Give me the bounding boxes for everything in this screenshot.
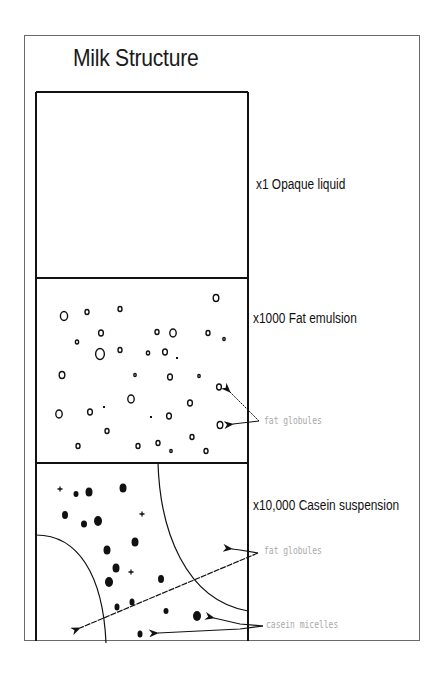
fat-globule <box>170 450 172 453</box>
fat-globule <box>213 295 219 302</box>
casein-micelles-group <box>58 484 202 638</box>
fat-globule <box>85 310 89 315</box>
casein-micelle <box>132 538 139 547</box>
fat-globules-group <box>56 295 225 454</box>
fat-globule-dot <box>103 406 105 408</box>
casein-micelle <box>158 575 164 583</box>
casein-micelle <box>105 577 113 587</box>
label-opaque-liquid: x1 Opaque liquid <box>256 176 345 192</box>
fat-globule <box>118 348 122 353</box>
annotation-fat-globules-1: fat globules <box>264 415 322 426</box>
fat-globule-arcs <box>36 463 248 643</box>
fat-globule <box>75 340 78 344</box>
label-fat-emulsion: x1000 Fat emulsion <box>253 310 357 326</box>
fat-globule <box>128 395 134 403</box>
fat-globule <box>168 374 173 380</box>
fat-globule <box>204 449 208 454</box>
casein-micelle <box>113 564 120 573</box>
casein-micelle <box>115 604 120 611</box>
casein-micelle <box>120 484 127 493</box>
casein-micelle <box>104 546 111 555</box>
milk-structure-diagram <box>0 0 443 678</box>
fat-globule <box>60 312 67 321</box>
casein-micelle <box>81 521 87 528</box>
fat-globule <box>188 400 193 406</box>
fat-globule <box>206 331 210 336</box>
fat-globule <box>155 330 159 335</box>
fat-globule <box>136 444 140 449</box>
casein-micelle <box>193 611 201 621</box>
fat-globule <box>198 375 200 378</box>
fat-globule <box>56 410 62 418</box>
casein-micelle <box>130 599 135 606</box>
casein-micelle-small <box>58 487 63 492</box>
fat-globule <box>170 329 176 337</box>
casein-micelle-small <box>140 512 145 517</box>
fat-globule <box>217 422 223 429</box>
fat-globule <box>223 338 225 341</box>
magnification-column <box>36 92 248 641</box>
label-casein-suspension: x10,000 Casein suspension <box>253 497 399 513</box>
fat-globule <box>59 372 65 379</box>
fat-globule <box>76 444 80 449</box>
casein-section-arrows <box>80 549 263 633</box>
fat-globule <box>118 307 122 312</box>
fat-globule <box>96 349 105 360</box>
fat-globule <box>146 351 149 355</box>
casein-micelle <box>74 491 79 497</box>
casein-micelle <box>94 516 102 526</box>
fat-globule <box>88 409 93 415</box>
fat-globule <box>134 374 136 377</box>
annotation-casein-micelles: casein micelles <box>266 619 338 630</box>
fat-globule <box>163 349 168 355</box>
fat-globule <box>190 435 194 440</box>
fat-globule <box>105 429 109 434</box>
fat-globule <box>217 384 222 390</box>
fat-globule <box>167 413 172 419</box>
fat-globule <box>99 330 104 336</box>
casein-micelle-small <box>129 570 134 575</box>
fat-globule-arrows <box>230 392 259 424</box>
casein-micelle <box>62 511 68 519</box>
casein-micelle <box>86 488 93 497</box>
fat-globule-dot <box>150 416 152 418</box>
casein-micelle <box>138 631 143 638</box>
annotation-fat-globules-2: fat globules <box>264 545 322 556</box>
casein-micelle <box>164 608 169 614</box>
fat-globule <box>156 441 160 446</box>
fat-globule-dot <box>176 357 178 359</box>
